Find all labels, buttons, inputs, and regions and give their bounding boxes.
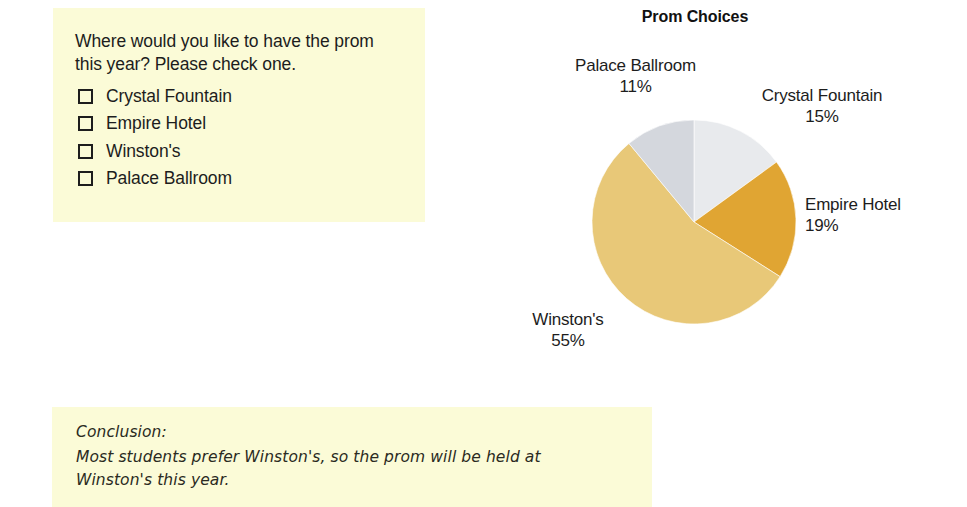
pie-label-winstons: Winston's 55% <box>488 310 648 351</box>
survey-option-label: Empire Hotel <box>106 113 206 134</box>
pie-label-percent: 15% <box>732 107 912 128</box>
checkbox-empty-icon[interactable] <box>78 116 93 131</box>
pie-label-name: Winston's <box>532 310 603 329</box>
pie-label-crystal-fountain: Crystal Fountain 15% <box>732 86 912 127</box>
conclusion-line-1: Most students prefer Winston's, so the p… <box>76 446 652 470</box>
prom-choices-chart: Prom Choices Palace Ballroom 11% Crystal… <box>500 0 967 390</box>
pie-label-percent: 11% <box>548 77 723 98</box>
pie-label-percent: 19% <box>805 216 965 237</box>
survey-option-winstons[interactable]: Winston's <box>75 141 425 162</box>
conclusion-heading: Conclusion: <box>76 421 652 445</box>
survey-option-list: Crystal Fountain Empire Hotel Winston's … <box>75 86 425 190</box>
survey-card: Where would you like to have the prom th… <box>53 8 425 222</box>
survey-option-label: Palace Ballroom <box>106 168 232 189</box>
pie-label-name: Empire Hotel <box>805 195 901 214</box>
pie-label-name: Crystal Fountain <box>762 86 883 105</box>
conclusion-line-2: Winston's this year. <box>76 469 652 493</box>
survey-question: Where would you like to have the prom th… <box>75 30 405 77</box>
checkbox-empty-icon[interactable] <box>78 171 93 186</box>
checkbox-empty-icon[interactable] <box>78 144 93 159</box>
survey-option-crystal-fountain[interactable]: Crystal Fountain <box>75 86 425 107</box>
survey-option-empire-hotel[interactable]: Empire Hotel <box>75 113 425 134</box>
pie-slice-group <box>592 120 796 324</box>
survey-option-palace-ballroom[interactable]: Palace Ballroom <box>75 168 425 189</box>
survey-option-label: Crystal Fountain <box>106 86 232 107</box>
pie-label-percent: 55% <box>488 331 648 352</box>
conclusion-card: Conclusion: Most students prefer Winston… <box>52 407 652 507</box>
pie-label-empire-hotel: Empire Hotel 19% <box>805 195 965 236</box>
pie-label-name: Palace Ballroom <box>575 56 696 75</box>
pie-label-palace-ballroom: Palace Ballroom 11% <box>548 56 723 97</box>
checkbox-empty-icon[interactable] <box>78 89 93 104</box>
survey-option-label: Winston's <box>106 141 180 162</box>
